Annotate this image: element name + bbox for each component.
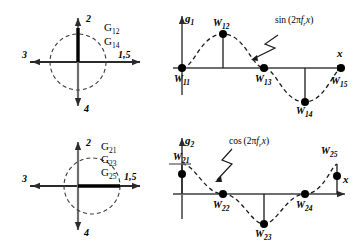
annotation-leader-arrow [251, 55, 258, 61]
axis-label-up: 2 [86, 14, 91, 24]
axis-label-right: 1,5 [118, 50, 131, 60]
sample-label-w14: W14 [296, 106, 312, 119]
sample-point-w21 [178, 170, 186, 178]
sample-point-w22 [219, 190, 227, 198]
axis-label-up: 2 [86, 138, 91, 148]
phasor-diagram-g1-canvas [0, 0, 165, 124]
phasor-diagram-g2: 2 4 3 1,5 G21 G23 G25 [0, 124, 165, 248]
sample-label-w21: W21 [173, 152, 189, 165]
annotation-leader [217, 149, 232, 180]
figure-root: 2 4 3 1,5 G12 G14 [0, 0, 353, 248]
phasor-diagram-g2-canvas [0, 124, 165, 248]
annotation-leader-arrow [215, 176, 222, 182]
curve-label-sin: sin (2πfrx) [275, 16, 313, 28]
sample-point-w13 [260, 64, 268, 72]
sample-label-w15: W15 [331, 76, 347, 89]
y-axis-label: g2 [185, 135, 194, 149]
x-axis-label: x [337, 48, 343, 59]
sample-label-w25: W25 [321, 146, 337, 159]
sample-point-w24 [301, 190, 309, 198]
sample-label-w24: W24 [296, 200, 312, 213]
sample-label-w22: W22 [213, 200, 229, 213]
sample-label-w23: W23 [255, 229, 271, 242]
axis-label-down: 4 [84, 104, 89, 114]
vector-label-g14: G14 [104, 36, 119, 50]
axis-label-left: 3 [22, 174, 27, 184]
sample-label-w11: W11 [174, 74, 190, 87]
sample-point-w23 [260, 220, 268, 228]
sample-point-w12 [219, 30, 227, 38]
axis-label-left: 3 [22, 50, 27, 60]
sine-waveform-plot: g1 x sin (2πfrx) W11 W12 W13 W14 W15 [165, 0, 353, 124]
sample-label-w12: W12 [213, 18, 229, 31]
x-axis-label: x [343, 174, 349, 185]
curve-label-cos: cos (2πfrx) [229, 137, 269, 149]
vector-label-g25: G25 [101, 167, 116, 181]
sample-point-w25 [333, 172, 341, 180]
sample-label-w13: W13 [255, 74, 271, 87]
axis-label-down: 4 [84, 228, 89, 238]
vector-label-g12: G12 [104, 22, 119, 36]
cosine-waveform-plot: g2 x cos (2πfrx) W21 W22 W23 W24 W25 [165, 124, 353, 248]
y-axis-label: g1 [185, 13, 194, 27]
axis-label-right: 1,5 [124, 172, 137, 182]
sample-point-w11 [178, 64, 186, 72]
sample-point-w15 [337, 64, 345, 72]
phasor-diagram-g1: 2 4 3 1,5 G12 G14 [0, 0, 165, 124]
